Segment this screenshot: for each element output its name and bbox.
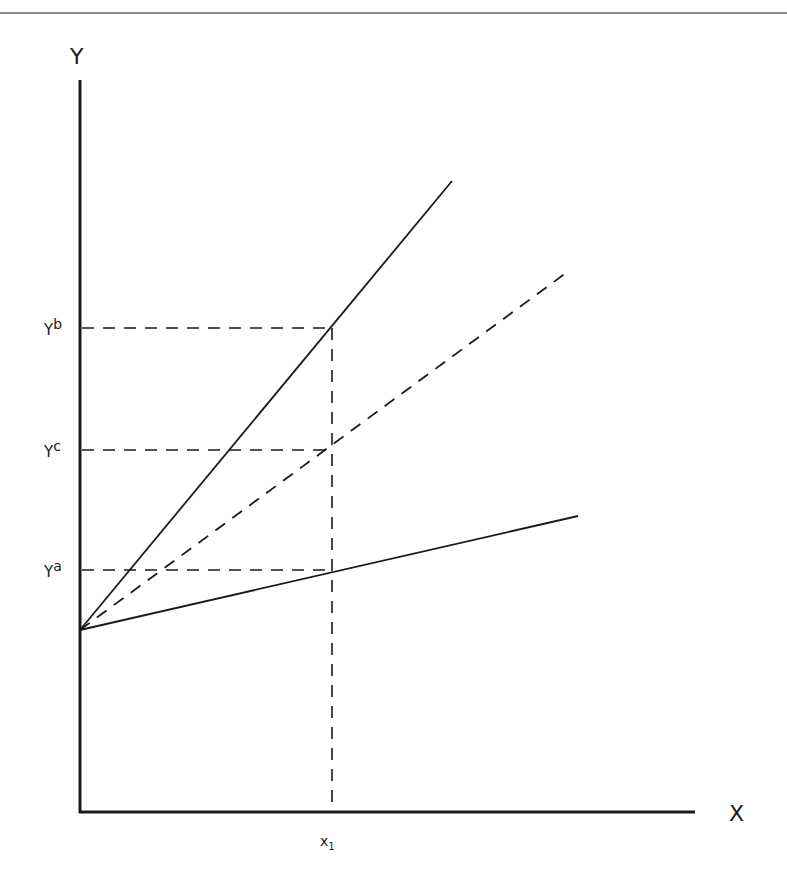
- y-axis-label: Y: [70, 44, 83, 69]
- tick-label-x1: x1: [320, 833, 335, 852]
- tick-sup: b: [53, 316, 62, 332]
- tick-sup: c: [53, 438, 61, 454]
- x-axis-label: X: [729, 801, 744, 826]
- diagram-canvas: [0, 0, 787, 885]
- tick-base: Y: [44, 443, 53, 461]
- tick-label-yc: Yc: [44, 438, 61, 461]
- tick-base: Y: [44, 563, 53, 581]
- tick-label-yb: Yb: [44, 316, 62, 339]
- tick-base: Y: [44, 321, 53, 339]
- tick-sup: a: [53, 558, 62, 574]
- tick-sub: 1: [328, 841, 334, 852]
- shallow-solid-line: [80, 516, 578, 630]
- steep-solid-line: [80, 181, 452, 630]
- tick-label-ya: Ya: [44, 558, 62, 581]
